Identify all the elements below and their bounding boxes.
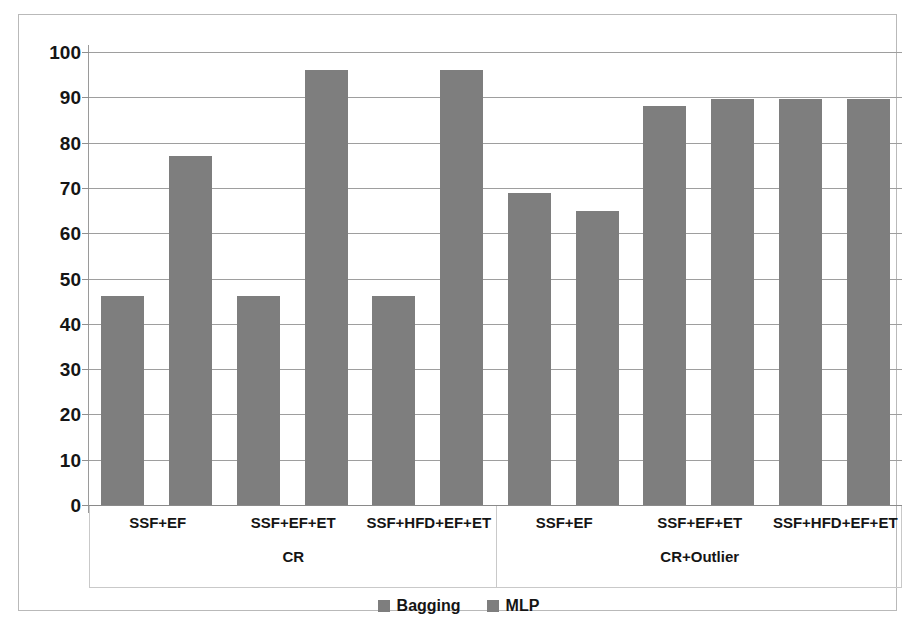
value-axis-tick-90: 90 — [35, 88, 81, 107]
tick-mark-80 — [82, 143, 89, 144]
tick-mark-40 — [82, 324, 89, 325]
tick-mark-10 — [82, 460, 89, 461]
legend-swatch-icon-bagging — [378, 600, 390, 612]
value-axis-tick-0: 0 — [35, 496, 81, 515]
category-axis-band: SSF+EFSSF+EF+ETSSF+HFD+EF+ETSSF+EFSSF+EF… — [89, 506, 902, 588]
bar-chart: 1009080706050403020100 SSF+EFSSF+EF+ETSS… — [0, 0, 905, 627]
bar-CR-SSF-EF-ET-Bagging[interactable] — [237, 296, 280, 505]
group-label-cr-outlier: CR+Outlier — [600, 548, 800, 565]
tick-mark-50 — [82, 279, 89, 280]
legend-label-mlp: MLP — [506, 598, 540, 614]
bar-CR-SSF-EF-MLP[interactable] — [169, 156, 212, 505]
legend-item-mlp[interactable]: MLP — [487, 598, 540, 614]
tick-mark-0 — [82, 505, 89, 506]
gridline-100 — [89, 52, 902, 53]
bar-CR-Outlier-SSF-HFD-EF-ET-MLP[interactable] — [847, 99, 890, 505]
tick-mark-60 — [82, 233, 89, 234]
group-label-cr: CR — [193, 548, 393, 565]
bar-CR-Outlier-SSF-EF-ET-Bagging[interactable] — [643, 106, 686, 505]
bar-CR-SSF-HFD-EF-ET-Bagging[interactable] — [372, 296, 415, 505]
value-axis-tick-20: 20 — [35, 405, 81, 424]
legend-item-bagging[interactable]: Bagging — [378, 598, 461, 614]
value-axis-tick-10: 10 — [35, 450, 81, 469]
bar-CR-Outlier-SSF-EF-Bagging[interactable] — [508, 193, 551, 505]
bar-CR-Outlier-SSF-EF-ET-MLP[interactable] — [711, 99, 754, 505]
category-label-outlier-2: SSF+HFD+EF+ET — [735, 514, 905, 531]
value-axis-tick-70: 70 — [35, 178, 81, 197]
value-axis-tick-50: 50 — [35, 269, 81, 288]
value-axis-tick-30: 30 — [35, 360, 81, 379]
value-axis-tick-60: 60 — [35, 224, 81, 243]
bar-CR-SSF-HFD-EF-ET-MLP[interactable] — [440, 70, 483, 505]
legend-label-bagging: Bagging — [397, 598, 461, 614]
chart-legend: BaggingMLP — [19, 593, 898, 619]
tick-mark-20 — [82, 414, 89, 415]
bar-CR-Outlier-SSF-EF-MLP[interactable] — [576, 211, 619, 505]
tick-mark-100 — [82, 52, 89, 53]
bar-CR-SSF-EF-Bagging[interactable] — [101, 296, 144, 505]
bar-CR-SSF-EF-ET-MLP[interactable] — [305, 70, 348, 505]
value-axis-labels: 1009080706050403020100 — [35, 52, 81, 505]
value-axis-tick-100: 100 — [35, 43, 81, 62]
legend-swatch-icon-mlp — [487, 600, 499, 612]
tick-mark-70 — [82, 188, 89, 189]
value-axis-tick-80: 80 — [35, 133, 81, 152]
bar-CR-Outlier-SSF-HFD-EF-ET-Bagging[interactable] — [779, 99, 822, 505]
value-axis-tick-40: 40 — [35, 314, 81, 333]
tick-mark-30 — [82, 369, 89, 370]
tick-mark-90 — [82, 97, 89, 98]
chart-frame: 1009080706050403020100 SSF+EFSSF+EF+ETSS… — [18, 14, 897, 611]
plot-area — [89, 52, 902, 505]
